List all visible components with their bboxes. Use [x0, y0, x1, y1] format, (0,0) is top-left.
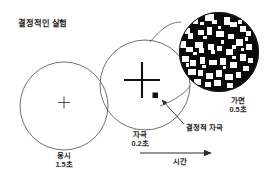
critical-stimulus-square: [153, 93, 159, 99]
stimulus-panel-label: 자극 0.2초: [132, 131, 149, 148]
fixation-panel-label: 응시 1.5초: [56, 152, 73, 169]
stimulus-label-line2: 0.2초: [132, 140, 149, 149]
time-axis-label: 시간: [173, 158, 187, 167]
figure-title: 결정적인 실험: [18, 16, 67, 28]
mask-panel-label: 가면 0.5초: [230, 97, 247, 114]
critical-stimulus-annotation: 결정적 자극: [186, 124, 222, 133]
mask-leader-line: [150, 22, 181, 42]
mask-label-line2: 0.5초: [230, 106, 247, 115]
mask-panel-graphic: [179, 12, 258, 91]
figure-container: 결정적인 실험 응시 1.5초 자극 0.2초 가면 0.5초 결정적 자극 시…: [0, 0, 274, 192]
stimulus-panel-circle: [100, 40, 190, 130]
fixation-label-line2: 1.5초: [56, 161, 73, 170]
